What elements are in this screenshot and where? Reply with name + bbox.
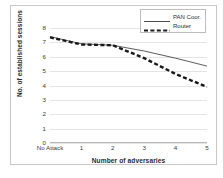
y-tick-label: 3: [30, 97, 46, 103]
x-tick-label: 3: [142, 145, 145, 151]
legend-swatch-dashed: [144, 21, 170, 30]
x-tick-label: 2: [111, 145, 114, 151]
x-tick-label: No Attack: [37, 145, 63, 151]
y-tick-label: 5: [30, 68, 46, 74]
x-axis-title: Number of adversaries: [50, 157, 207, 164]
legend-item-pan-coor[interactable]: PAN Coor.: [144, 12, 201, 21]
plot-area: [50, 28, 207, 143]
chart-legend: PAN Coor. Router: [140, 9, 206, 33]
legend-swatch-solid: [144, 12, 170, 21]
y-axis-ticks: 012345678: [28, 28, 46, 143]
legend-item-router[interactable]: Router: [144, 21, 201, 30]
x-tick-label: 5: [205, 145, 208, 151]
series-layer: [50, 28, 207, 143]
y-tick-label: 6: [30, 54, 46, 60]
x-tick-label: 1: [80, 145, 83, 151]
gridline: [50, 143, 207, 144]
legend-label-pan-coor: PAN Coor.: [173, 14, 201, 20]
y-tick-label: 1: [30, 126, 46, 132]
y-tick-label: 8: [30, 25, 46, 31]
y-tick-label: 4: [30, 82, 46, 88]
chart-container: No. of established sessions 012345678 No…: [0, 0, 223, 178]
x-tick-label: 4: [174, 145, 177, 151]
y-tick-label: 2: [30, 111, 46, 117]
legend-label-router: Router: [173, 23, 191, 29]
y-axis-title: No. of established sessions: [16, 2, 23, 106]
y-tick-label: 7: [30, 39, 46, 45]
series-line-router: [50, 37, 207, 87]
x-axis-ticks: No Attack12345: [50, 145, 207, 156]
